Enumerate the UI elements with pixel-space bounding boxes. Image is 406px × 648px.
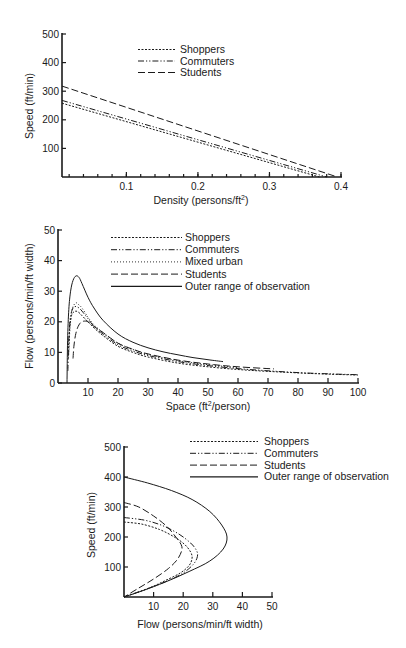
series-students — [73, 321, 274, 369]
y-tick-label: 0 — [49, 378, 55, 389]
legend-item-students: Students — [190, 459, 305, 471]
x-tick-label: 70 — [262, 387, 274, 398]
legend-item-mixed-urban: Mixed urban — [111, 255, 243, 267]
series-commuters — [124, 518, 198, 598]
series-mixed-urban — [69, 303, 238, 368]
legend-label: Commuters — [185, 243, 239, 255]
series-shoppers — [62, 103, 320, 177]
legend-label: Shoppers — [185, 231, 230, 243]
legend-label: Commuters — [180, 55, 234, 67]
speed-density-x-axis-title: Density (persons/ft2) — [154, 194, 249, 206]
series-students — [124, 503, 182, 598]
legend-item-outer-range-of-observation: Outer range of observation — [190, 470, 389, 482]
x-tick-label: 90 — [322, 387, 334, 398]
x-tick-label: 0.1 — [119, 181, 133, 192]
x-tick-label: 30 — [142, 387, 154, 398]
speed-density-y-axis-title: Speed (ft/min) — [23, 73, 35, 139]
y-tick-label: 30 — [44, 286, 56, 297]
x-tick-label: 10 — [82, 387, 94, 398]
x-tick-label: 80 — [292, 387, 304, 398]
speed-flow-plot-area — [124, 477, 227, 597]
legend-item-students: Students — [138, 66, 221, 78]
speed-flow-y-axis-title: Speed (ft/min) — [85, 492, 97, 558]
flow-space-legend: ShoppersCommutersMixed urbanStudentsOute… — [111, 231, 310, 292]
x-tick-label: 0.4 — [334, 181, 348, 192]
speed-flow-axes: 1002003004005001020304050 — [104, 442, 278, 613]
y-tick-label: 50 — [44, 225, 56, 236]
x-tick-label: 40 — [237, 601, 249, 612]
series-commuters — [68, 307, 358, 375]
y-tick-label: 400 — [42, 57, 59, 68]
speed-flow-chart: 1002003004005001020304050 ShoppersCommut… — [85, 435, 389, 630]
flow-space-x-axis-title: Space (ft2/person) — [166, 400, 250, 412]
flow-space-chart: 01020304050102030405060708090100 Shopper… — [23, 225, 367, 413]
legend-item-commuters: Commuters — [138, 55, 234, 67]
y-tick-label: 200 — [104, 532, 121, 543]
speed-flow-legend: ShoppersCommutersStudentsOuter range of … — [190, 435, 389, 482]
legend-item-commuters: Commuters — [111, 243, 239, 255]
y-tick-label: 40 — [44, 255, 56, 266]
series-students — [62, 86, 337, 177]
legend-label: Outer range of observation — [264, 470, 389, 482]
y-tick-label: 10 — [44, 347, 56, 358]
speed-density-legend: ShoppersCommutersStudents — [138, 43, 234, 78]
series-outer-range-of-observation — [67, 276, 223, 383]
legend-label: Mixed urban — [185, 255, 243, 267]
flow-space-y-axis-title: Flow (persons/min/ft width) — [23, 243, 35, 368]
speed-flow-x-axis-title: Flow (persons/min/ft width) — [137, 618, 262, 630]
speed-density-chart: 1002003004005000.10.20.30.4 ShoppersComm… — [23, 29, 348, 207]
x-tick-label: 50 — [266, 601, 278, 612]
y-tick-label: 400 — [104, 472, 121, 483]
legend-item-students: Students — [111, 268, 226, 280]
flow-space-plot-area — [67, 276, 358, 383]
x-tick-label: 20 — [112, 387, 124, 398]
legend-item-shoppers: Shoppers — [138, 43, 225, 55]
x-tick-label: 10 — [148, 601, 160, 612]
x-tick-label: 20 — [178, 601, 190, 612]
y-tick-label: 500 — [104, 442, 121, 453]
legend-label: Students — [264, 459, 305, 471]
legend-label: Students — [180, 66, 221, 78]
x-tick-label: 30 — [207, 601, 219, 612]
x-tick-label: 40 — [172, 387, 184, 398]
speed-density-plot-area — [62, 86, 337, 177]
legend-item-commuters: Commuters — [190, 447, 318, 459]
y-tick-label: 500 — [42, 29, 59, 40]
series-shoppers — [124, 522, 192, 597]
legend-label: Commuters — [264, 447, 318, 459]
y-tick-label: 300 — [42, 86, 59, 97]
series-commuters — [62, 100, 327, 177]
legend-label: Shoppers — [180, 43, 225, 55]
y-tick-label: 200 — [42, 114, 59, 125]
y-tick-label: 100 — [42, 143, 59, 154]
x-tick-label: 0.2 — [191, 181, 205, 192]
x-tick-label: 50 — [202, 387, 214, 398]
x-tick-label: 0.3 — [263, 181, 277, 192]
figure-canvas: 1002003004005000.10.20.30.4 ShoppersComm… — [0, 0, 406, 648]
x-tick-label: 60 — [232, 387, 244, 398]
series-shoppers — [69, 311, 359, 375]
x-tick-label: 100 — [350, 387, 367, 398]
legend-label: Outer range of observation — [185, 280, 310, 292]
legend-item-outer-range-of-observation: Outer range of observation — [111, 280, 310, 292]
y-tick-label: 100 — [104, 562, 121, 573]
legend-label: Students — [185, 268, 226, 280]
legend-label: Shoppers — [264, 435, 309, 447]
legend-item-shoppers: Shoppers — [190, 435, 309, 447]
legend-item-shoppers: Shoppers — [111, 231, 230, 243]
y-tick-label: 300 — [104, 502, 121, 513]
y-tick-label: 20 — [44, 316, 56, 327]
